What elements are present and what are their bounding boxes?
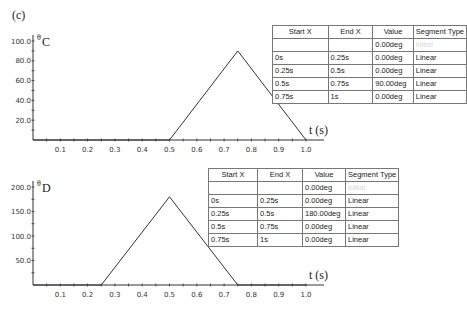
- svg-text:100.0: 100.0: [11, 38, 31, 46]
- svg-text:0.5: 0.5: [164, 291, 175, 299]
- table-row: 0.75s 1s 0.00deg Linear: [209, 234, 399, 247]
- table-row: 0.00deg initial: [209, 182, 399, 195]
- svg-text:0.3: 0.3: [109, 291, 120, 299]
- svg-text:150.0: 150.0: [11, 208, 31, 216]
- svg-text:100.0: 100.0: [11, 233, 31, 241]
- svg-text:0.1: 0.1: [55, 146, 66, 154]
- svg-text:0.2: 0.2: [82, 291, 93, 299]
- col-value: Value: [303, 169, 346, 182]
- svg-text:0.4: 0.4: [137, 146, 149, 154]
- col-start-x: Start X: [209, 169, 258, 182]
- table-row: 0.00deg initial: [273, 39, 467, 52]
- table-row: 0.75s 1s 0.00deg Linear: [273, 91, 467, 104]
- x-axis-label: t (s): [309, 268, 328, 282]
- table-row: 0.25s 0.5s 0.00deg Linear: [273, 65, 467, 78]
- col-start-x: Start X: [273, 26, 329, 39]
- segment-table-c: Start X End X Value Segment Type 0.00deg…: [272, 25, 467, 104]
- table-row: 0.5s 0.75s 0.00deg Linear: [209, 221, 399, 234]
- svg-text:50.0: 50.0: [15, 257, 31, 265]
- svg-text:0.2: 0.2: [82, 146, 93, 154]
- table-row: 0.5s 0.75s 90.00deg Linear: [273, 78, 467, 91]
- segment-table-d: Start X End X Value Segment Type 0.00deg…: [208, 168, 399, 247]
- svg-text:0.7: 0.7: [219, 291, 230, 299]
- col-segment-type: Segment Type: [413, 26, 466, 39]
- y-axis-symbol: θ: [37, 179, 41, 188]
- svg-text:20.0: 20.0: [15, 117, 31, 125]
- svg-text:0.4: 0.4: [137, 291, 149, 299]
- svg-text:0.9: 0.9: [273, 291, 284, 299]
- y-axis-label: C: [42, 35, 50, 49]
- y-axis-label: D: [42, 181, 51, 195]
- table-row: 0.25s 0.5s 180.00deg Linear: [209, 208, 399, 221]
- x-axis-label: t (s): [309, 123, 328, 137]
- svg-text:60.0: 60.0: [15, 77, 31, 85]
- svg-text:0.5: 0.5: [164, 146, 175, 154]
- table-row: 0s 0.25s 0.00deg Linear: [209, 195, 399, 208]
- col-end-x: End X: [258, 169, 303, 182]
- col-value: Value: [373, 26, 413, 39]
- svg-text:0.1: 0.1: [55, 291, 66, 299]
- svg-text:80.0: 80.0: [15, 57, 31, 65]
- table-row: 0s 0.25s 0.00deg Linear: [273, 52, 467, 65]
- svg-text:0.7: 0.7: [219, 146, 230, 154]
- svg-text:200.0: 200.0: [11, 184, 31, 192]
- svg-text:0.8: 0.8: [246, 291, 257, 299]
- col-end-x: End X: [328, 26, 373, 39]
- svg-text:0.6: 0.6: [191, 291, 203, 299]
- svg-text:1.0: 1.0: [300, 291, 311, 299]
- svg-text:0.8: 0.8: [246, 146, 257, 154]
- svg-text:0.6: 0.6: [191, 146, 203, 154]
- svg-text:1.0: 1.0: [300, 146, 311, 154]
- col-segment-type: Segment Type: [346, 169, 399, 182]
- svg-text:0.9: 0.9: [273, 146, 284, 154]
- svg-text:40.0: 40.0: [15, 97, 31, 105]
- data-line: [33, 51, 306, 140]
- y-axis-symbol: θ: [37, 33, 41, 42]
- svg-text:0.3: 0.3: [109, 146, 120, 154]
